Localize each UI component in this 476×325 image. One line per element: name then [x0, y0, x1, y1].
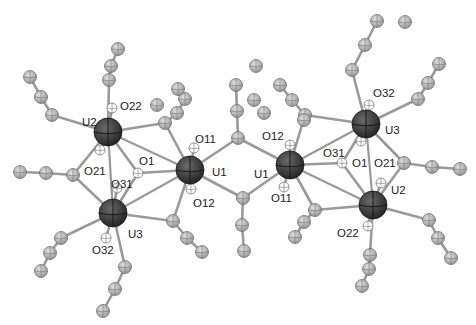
atom-U1a: [176, 156, 204, 184]
atom-Cc15: [445, 252, 458, 265]
atom-Cc4: [346, 64, 359, 77]
atom-Ca5: [105, 60, 118, 73]
atom-label-u3: U3: [128, 228, 143, 240]
atom-Ca22: [151, 99, 164, 112]
atom-O32b: [364, 100, 374, 110]
atom-O12b: [285, 140, 295, 150]
atom-Cb1: [232, 132, 245, 145]
atom-label-o1: O1: [139, 155, 154, 167]
atom-Ca10: [67, 169, 80, 182]
atom-U3b: [352, 110, 380, 138]
atom-label-o21: O21: [374, 157, 396, 169]
atom-Cc24: [258, 107, 271, 120]
atom-label-u2: U2: [82, 116, 97, 128]
atom-Cb6: [238, 245, 251, 258]
atom-Ca18: [97, 305, 110, 318]
atom-Cc23: [248, 94, 261, 107]
atom-label-o12: O12: [262, 130, 284, 142]
atom-Cb2: [231, 105, 244, 118]
atom-Cc21: [289, 231, 302, 244]
atom-U3a: [99, 199, 127, 227]
atom-Ca8: [171, 107, 184, 120]
atom-O1a: [133, 168, 143, 178]
atom-label-u1: U1: [254, 168, 269, 180]
atom-label-u2: U2: [391, 184, 406, 196]
atom-label-o1: O1: [352, 157, 367, 169]
atom-O32a: [101, 233, 111, 243]
atom-label-o31: O31: [323, 147, 345, 159]
atom-Cc9: [433, 58, 446, 71]
atom-Cc22: [298, 114, 311, 127]
atom-Ca11: [40, 167, 53, 180]
atom-Cc7: [412, 93, 425, 106]
atom-O12a: [186, 184, 196, 194]
atom-Ca21: [196, 246, 209, 259]
atom-Ca12: [14, 166, 27, 179]
atom-Ca14: [44, 247, 57, 260]
atom-label-o21: O21: [84, 165, 106, 177]
atom-Ca3: [24, 71, 37, 84]
atom-O22b: [363, 221, 373, 231]
atom-Cb4: [237, 192, 250, 205]
atom-Cc25: [250, 60, 263, 73]
atom-Cc5: [359, 39, 372, 52]
atom-Cc13: [423, 214, 436, 227]
atom-Cc8: [422, 77, 435, 90]
atom-label-o22: O22: [337, 227, 359, 239]
atom-label-o11: O11: [195, 133, 216, 145]
atom-Ca2: [35, 91, 48, 104]
atom-O22a: [107, 103, 117, 113]
atom-Cc18: [356, 280, 369, 293]
atom-Cc12: [454, 163, 467, 176]
atom-label-o11: O11: [271, 192, 292, 204]
atom-U2b: [359, 191, 387, 219]
atom-U1b: [276, 151, 304, 179]
atom-Ca16: [119, 261, 132, 274]
atom-Cc10: [398, 157, 411, 170]
atom-label-u1: U1: [212, 166, 227, 178]
atom-label-o12: O12: [193, 197, 215, 209]
atom-Ca17: [109, 283, 122, 296]
atom-Ca7: [159, 117, 172, 130]
atom-O11b: [279, 182, 289, 192]
atom-Cc16: [364, 249, 377, 262]
molecular-structure-diagram: U2O22O21O1O31O11U1O12U3O32O12U1O11O31O1O…: [0, 0, 476, 325]
atom-label-o31: O31: [111, 178, 133, 190]
atom-Cb3: [230, 79, 243, 92]
atom-U2a: [94, 118, 122, 146]
atom-Ca19: [167, 215, 180, 228]
atom-Cc11: [426, 161, 439, 174]
atom-Cc6: [371, 15, 384, 28]
atom-Ca23: [172, 83, 185, 96]
atom-Ca6: [112, 43, 125, 56]
atom-Cc17: [363, 263, 376, 276]
atom-label-o22: O22: [120, 100, 142, 112]
atom-Ca15: [35, 265, 48, 278]
atom-Ca13: [55, 232, 68, 245]
atom-Cc3: [274, 79, 287, 92]
atom-Cc2: [286, 94, 299, 107]
atom-Ca4: [103, 74, 116, 87]
atom-O21b: [376, 178, 386, 188]
atom-O21a: [95, 145, 105, 155]
atom-Cc19: [309, 204, 322, 217]
atom-Ca20: [181, 232, 194, 245]
atom-Cc26: [399, 16, 412, 29]
atom-Cb5: [236, 219, 249, 232]
atom-label-u3: U3: [385, 124, 400, 136]
atom-Cc14: [432, 232, 445, 245]
atom-label-o32: O32: [92, 244, 114, 256]
atom-O1b: [337, 158, 347, 168]
atom-Cc20: [298, 216, 311, 229]
atom-label-o32: O32: [373, 87, 395, 99]
atom-Ca1: [46, 109, 59, 122]
